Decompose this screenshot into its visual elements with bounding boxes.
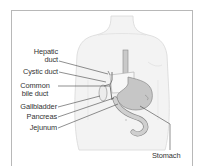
label-line: Stomach xyxy=(152,152,180,160)
label-line: Cystic duct xyxy=(6,68,58,76)
label-line: Gallbladder xyxy=(6,103,57,111)
label-stomach: Stomach xyxy=(152,152,180,160)
label-line: Pancreas xyxy=(10,113,57,121)
label-line: duct xyxy=(14,56,58,64)
label-cystic-duct: Cystic duct xyxy=(6,68,58,76)
label-hepatic-duct: Hepatic duct xyxy=(14,48,58,64)
label-jejunum: Jejunum xyxy=(10,124,57,132)
gallbladder-organ xyxy=(99,85,107,101)
label-line: bile duct xyxy=(14,90,56,98)
label-line: Jejunum xyxy=(10,124,57,132)
label-gallbladder: Gallbladder xyxy=(6,103,57,111)
label-pancreas: Pancreas xyxy=(10,113,57,121)
label-common-bile-duct: Common bile duct xyxy=(14,82,56,98)
